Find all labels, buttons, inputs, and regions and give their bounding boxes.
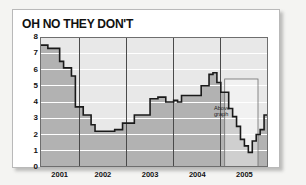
x-axis-labels: 20012002200320042005: [40, 170, 268, 182]
x-axis-tick-label: 2004: [189, 170, 206, 179]
y-axis-tick-label: 4: [34, 98, 38, 106]
area-chart-svg: [40, 37, 268, 167]
above-graph-annotation: Above graph: [214, 105, 230, 117]
y-axis-tick-label: 8: [34, 33, 38, 41]
page-title: OH NO THEY DON'T: [22, 16, 133, 31]
chart-card: OH NO THEY DON'T % 012345678 20012002200…: [12, 9, 280, 168]
x-axis-tick-label: 2001: [51, 170, 68, 179]
chart-canvas: [40, 37, 268, 167]
x-axis-tick-label: 2003: [142, 170, 159, 179]
x-axis-tick-label: 2005: [236, 170, 253, 179]
y-axis-tick-label: 7: [34, 49, 38, 57]
y-axis-tick-label: 5: [34, 82, 38, 90]
y-axis-tick-label: 6: [34, 66, 38, 74]
y-axis-tick-label: 3: [34, 114, 38, 122]
chart-screenshot: OH NO THEY DON'T % 012345678 20012002200…: [0, 0, 306, 185]
y-axis-tick-label: 1: [34, 147, 38, 155]
plot-area: [40, 37, 268, 173]
y-axis-tick-label: 0: [34, 163, 38, 171]
x-axis-tick-label: 2002: [95, 170, 112, 179]
y-axis-labels: 012345678: [25, 37, 38, 167]
y-axis-tick-label: 2: [34, 131, 38, 139]
